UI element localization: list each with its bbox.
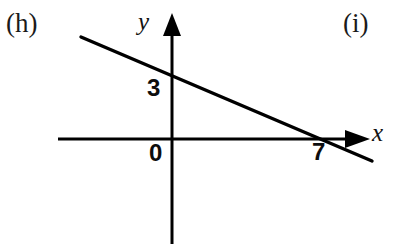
graph-plot [0, 0, 403, 244]
y-axis [163, 13, 181, 244]
x-intercept-label: 7 [312, 140, 325, 164]
y-axis-arrowhead [163, 13, 181, 36]
figure-canvas: (h) (i) y x 3 0 7 [0, 0, 403, 244]
graph-line [81, 37, 372, 161]
y-axis-label: y [138, 9, 149, 34]
y-intercept-label: 3 [147, 76, 160, 100]
x-axis-label: x [372, 120, 383, 145]
origin-label: 0 [149, 141, 162, 165]
x-axis-arrowhead [345, 130, 370, 148]
